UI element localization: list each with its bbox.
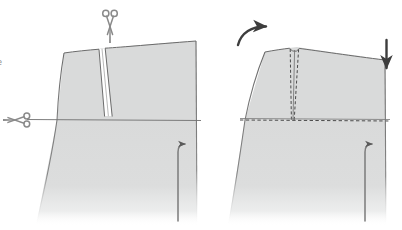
left-panel-group	[3, 10, 201, 226]
scissors-icon-horizontal	[3, 113, 30, 127]
right-panel-group	[228, 26, 390, 226]
illustration-canvas: e	[0, 0, 402, 230]
pattern-block-lower-right	[228, 120, 386, 226]
pattern-block-closed-dart	[245, 47, 386, 121]
diagram-svg	[0, 0, 402, 230]
pattern-block-lower-left	[36, 120, 197, 226]
curved-arrow-rotate-up-right	[238, 26, 266, 45]
scissors-icon-vertical	[103, 10, 118, 43]
pattern-block-open-dart	[57, 41, 197, 120]
